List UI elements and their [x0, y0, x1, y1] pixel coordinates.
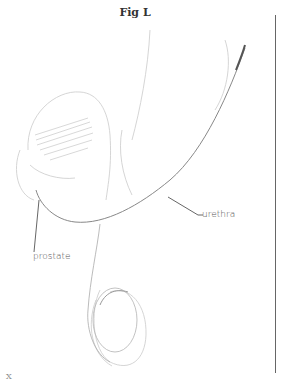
prostate-label: prostate [33, 251, 71, 261]
prostate-leader [34, 200, 39, 252]
urethra-leader [168, 197, 203, 215]
urethra-label: urethra [202, 209, 235, 219]
vertical-rule [275, 15, 276, 373]
anatomical-sketch [0, 0, 281, 379]
cut-off-text: X [6, 372, 12, 379]
